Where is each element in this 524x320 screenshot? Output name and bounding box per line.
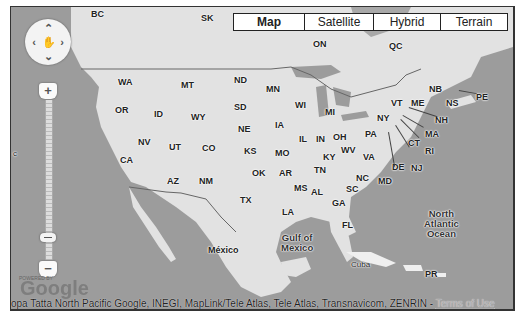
map-label-tx: TX xyxy=(240,195,252,205)
map-label-ia: IA xyxy=(275,120,284,130)
map-label-mo: MO xyxy=(275,148,290,158)
map-type-hybrid-button[interactable]: Hybrid xyxy=(374,14,441,30)
map-type-control: Map Satellite Hybrid Terrain xyxy=(233,13,508,31)
map-label-al: AL xyxy=(311,187,323,197)
pan-control: ⌃ ⌄ ‹ › ✋ xyxy=(25,19,71,65)
map-label-north-atlantic-ocean: North Atlantic Ocean xyxy=(424,209,459,239)
map-label-ar: AR xyxy=(279,168,292,178)
map-label-cuba: Cuba xyxy=(351,260,370,270)
map-label-nd: ND xyxy=(234,75,247,85)
map-label-mi: MI xyxy=(325,107,335,117)
pan-left-icon[interactable]: ‹ xyxy=(28,36,40,48)
map-viewport[interactable]: BC SK ON QC NB NS PE WA MT ND MN OR ID S… xyxy=(10,6,515,311)
map-label-ky: KY xyxy=(323,152,336,162)
map-label-nc: NC xyxy=(356,173,369,183)
map-label-mexico: México xyxy=(208,245,239,255)
map-label-ne: NE xyxy=(238,124,251,134)
map-label-sc: SC xyxy=(346,184,359,194)
map-label-bc: BC xyxy=(91,9,104,19)
map-label-qc: QC xyxy=(389,41,403,51)
map-label-ut: UT xyxy=(169,142,181,152)
map-label-nv: NV xyxy=(138,137,151,147)
map-label-oh: OH xyxy=(333,132,347,142)
map-label-co: CO xyxy=(202,143,216,153)
pan-up-icon[interactable]: ⌃ xyxy=(42,22,54,34)
map-label-in: IN xyxy=(316,134,325,144)
map-label-mn: MN xyxy=(266,84,280,94)
map-label-ok: OK xyxy=(252,168,266,178)
pan-down-icon[interactable]: ⌄ xyxy=(42,50,54,62)
map-label-ma: MA xyxy=(425,129,439,139)
attribution-text: opa Tatta North Pacific Google, INEGI, M… xyxy=(11,298,436,309)
map-label-sk: SK xyxy=(201,13,214,23)
map-label-nj: NJ xyxy=(411,163,423,173)
zoom-slider-handle[interactable] xyxy=(40,233,56,242)
map-label-nb: NB xyxy=(429,84,442,94)
map-label-pr: PR xyxy=(425,269,438,279)
hand-icon[interactable]: ✋ xyxy=(42,36,54,48)
map-label-or: OR xyxy=(115,105,129,115)
map-label-va: VA xyxy=(363,152,375,162)
map-label-il: IL xyxy=(299,134,307,144)
map-label-sd: SD xyxy=(234,102,247,112)
map-label-ca: CA xyxy=(120,155,133,165)
map-label-md: MD xyxy=(378,176,392,186)
map-attribution: opa Tatta North Pacific Google, INEGI, M… xyxy=(11,298,495,309)
map-label-pe: PE xyxy=(476,92,488,102)
map-type-satellite-button[interactable]: Satellite xyxy=(305,14,374,30)
map-label-vt: VT xyxy=(391,98,403,108)
map-type-terrain-button[interactable]: Terrain xyxy=(441,14,507,30)
map-label-id: ID xyxy=(154,109,163,119)
map-label-wy: WY xyxy=(191,112,206,122)
map-type-map-button[interactable]: Map xyxy=(234,14,305,30)
map-label-wa: WA xyxy=(118,77,133,87)
map-label-gulf-of-mexico: Gulf of Mexico xyxy=(281,233,313,253)
zoom-in-button[interactable]: + xyxy=(39,83,57,99)
map-label-me: ME xyxy=(411,98,425,108)
map-label-tn: TN xyxy=(314,165,326,175)
map-label-pa: PA xyxy=(365,129,377,139)
map-label-ks: KS xyxy=(244,146,257,156)
map-label-ny: NY xyxy=(377,113,390,123)
google-logo[interactable]: Google xyxy=(20,277,89,300)
map-label-on: ON xyxy=(313,39,327,49)
map-label-ms: MS xyxy=(294,183,308,193)
pan-right-icon[interactable]: › xyxy=(56,36,68,48)
map-label-ri: RI xyxy=(425,146,434,156)
map-label-az: AZ xyxy=(167,176,179,186)
map-canvas[interactable] xyxy=(11,7,513,309)
map-label-fl: FL xyxy=(342,220,353,230)
map-label-nm: NM xyxy=(199,176,213,186)
map-label-wv: WV xyxy=(341,145,356,155)
terms-of-use-link[interactable]: Terms of Use xyxy=(436,298,495,309)
map-label-ns: NS xyxy=(446,98,459,108)
map-label-mt: MT xyxy=(181,80,194,90)
map-label-ga: GA xyxy=(332,198,346,208)
map-label-edge: c xyxy=(13,149,17,159)
map-label-wi: WI xyxy=(295,100,306,110)
map-label-la: LA xyxy=(282,207,294,217)
